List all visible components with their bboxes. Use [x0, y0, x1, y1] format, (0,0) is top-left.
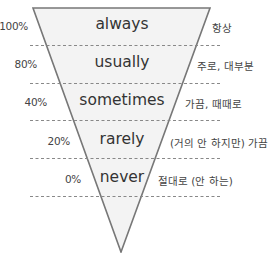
- frequency-funnel-diagram: 100% always 항상 80% usually 주로, 대부분 40% s…: [0, 0, 271, 253]
- korean-translation: 항상: [212, 20, 232, 35]
- korean-translation: 가끔, 때때로: [185, 96, 242, 111]
- adverb-label: sometimes: [62, 91, 182, 109]
- adverb-label: always: [62, 15, 182, 33]
- korean-translation: 절대로 (안 하는): [158, 173, 233, 188]
- korean-translation: (거의 안 하지만) 가끔: [170, 135, 268, 150]
- percent-label: 40%: [7, 96, 47, 108]
- percent-label: 100%: [0, 20, 28, 32]
- adverb-label: rarely: [62, 130, 182, 148]
- percent-label: 80%: [0, 58, 37, 70]
- funnel-graphic: [0, 0, 271, 253]
- adverb-label: usually: [62, 53, 182, 71]
- korean-translation: 주로, 대부분: [197, 58, 254, 73]
